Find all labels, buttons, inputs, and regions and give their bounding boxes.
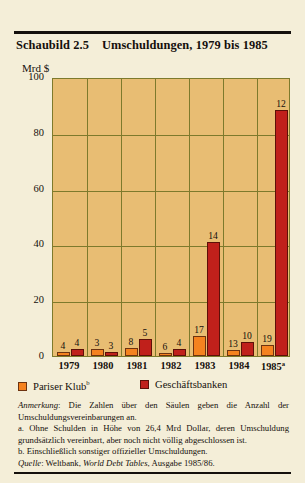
legend-label-geschaeftsbanken: Geschäftsbanken (155, 379, 227, 390)
bar-value-label: 14 (203, 230, 224, 241)
y-tick-label: 80 (14, 127, 44, 138)
x-tick-label: 1985a (243, 360, 303, 372)
bar-value-label: 4 (67, 337, 88, 348)
x-tick-marker: a (282, 360, 285, 367)
note-quelle-text-2: , Ausgabe 1985/86. (148, 458, 215, 468)
note-quelle: Quelle: Weltbank, World Debt Tables, Aus… (18, 458, 289, 470)
bar-pariserklub-1985 (261, 345, 274, 356)
bar-value-label: 3 (101, 340, 122, 351)
legend-item-geschaeftsbanken: Geschäftsbanken (140, 379, 227, 390)
note-b: b. Einschließlich sonstiger offizieller … (18, 446, 289, 458)
gridline-vertical (223, 79, 224, 356)
note-anmerkung-text: : Die Zahlen über den Säulen geben die A… (18, 400, 289, 422)
bar-geschftsbanken-1985 (275, 110, 288, 356)
legend-label-pariser-klub: Pariser Klub (33, 381, 86, 392)
gridline-horizontal (53, 302, 289, 303)
bar-value-label: 5 (135, 327, 156, 338)
gridline-horizontal (53, 246, 289, 247)
bar-pariserklub-1979 (57, 352, 70, 356)
figure-title: Schaubild 2.5Umschuldungen, 1979 bis 198… (16, 38, 291, 53)
bar-pariserklub-1981 (125, 348, 138, 356)
gridline-vertical (155, 79, 156, 356)
bar-pariserklub-1983 (193, 336, 206, 356)
legend-swatch-geschaeftsbanken (140, 380, 149, 389)
bar-pariserklub-1984 (227, 350, 240, 356)
y-tick-label: 40 (14, 238, 44, 249)
note-quelle-text-1: : Weltbank, (41, 458, 83, 468)
figure-notes: Anmerkung: Die Zahlen über den Säulen ge… (18, 400, 289, 469)
top-rule (14, 31, 291, 34)
bar-geschftsbanken-1979 (71, 349, 84, 356)
bar-pariserklub-1982 (159, 353, 172, 356)
bar-geschftsbanken-1982 (173, 349, 186, 356)
y-tick-label: 20 (14, 294, 44, 305)
bar-geschftsbanken-1984 (241, 342, 254, 356)
gridline-horizontal (53, 135, 289, 136)
y-tick-label: 60 (14, 183, 44, 194)
figure-title-text: Umschuldungen, 1979 bis 1985 (102, 38, 268, 52)
gridline-vertical (121, 79, 122, 356)
legend-marker-b: b (86, 379, 89, 386)
gridline-vertical (257, 79, 258, 356)
bar-value-label: 4 (169, 337, 190, 348)
bar-value-label: 12 (271, 98, 291, 109)
plot-area: 44338564171413101912 (52, 78, 290, 357)
note-anmerkung-label: Anmerkung (18, 400, 58, 410)
note-a: a. Ohne Schulden in Höhe von 26,4 Mrd Do… (18, 423, 289, 446)
gridline-vertical (87, 79, 88, 356)
bottom-rule (14, 472, 291, 474)
figure-label: Schaubild 2.5 (16, 38, 89, 52)
gridline-horizontal (53, 191, 289, 192)
bar-geschftsbanken-1983 (207, 242, 220, 356)
note-quelle-source: World Debt Tables (83, 458, 148, 468)
figure-page: Schaubild 2.5Umschuldungen, 1979 bis 198… (0, 0, 305, 483)
bar-geschftsbanken-1981 (139, 339, 152, 356)
note-quelle-label: Quelle (18, 458, 41, 468)
note-anmerkung: Anmerkung: Die Zahlen über den Säulen ge… (18, 400, 289, 423)
gridline-vertical (189, 79, 190, 356)
bar-geschftsbanken-1980 (105, 352, 118, 356)
bar-value-label: 10 (237, 330, 258, 341)
legend-item-pariser-klub: Pariser Klubb (18, 379, 90, 392)
plot-canvas: 44338564171413101912 (52, 78, 290, 357)
y-tick-label: 100 (14, 71, 44, 82)
legend-swatch-pariser-klub (18, 382, 27, 391)
